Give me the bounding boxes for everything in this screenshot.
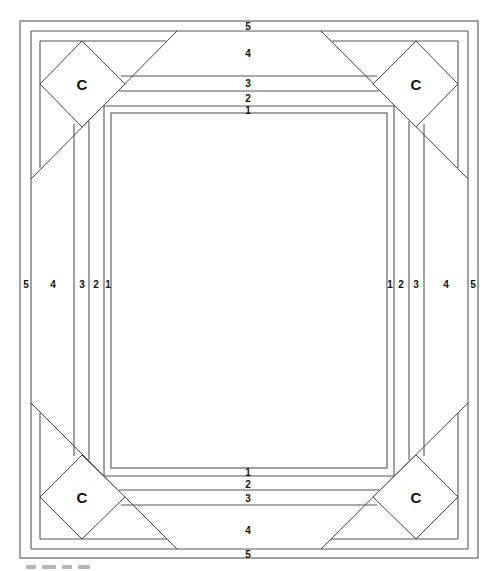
bottom-label-3: 3 — [245, 493, 251, 504]
right-label-2: 2 — [398, 279, 404, 290]
caption-fragment — [62, 565, 72, 569]
top-label-3: 3 — [245, 78, 251, 89]
top-label-4: 4 — [245, 48, 251, 59]
corner-label-bottom-right: C — [411, 489, 422, 506]
top-label-1: 1 — [245, 105, 251, 116]
cut-off-caption — [26, 565, 96, 571]
right-label-3: 3 — [413, 279, 419, 290]
right-label-4: 4 — [443, 279, 449, 290]
corner-label-top-left: C — [77, 76, 88, 93]
bottom-label-5: 5 — [245, 549, 251, 560]
bottom-label-2: 2 — [245, 479, 251, 490]
left-label-2: 2 — [93, 279, 99, 290]
right-label-5: 5 — [470, 279, 476, 290]
top-label-5: 5 — [245, 21, 251, 32]
top-label-2: 2 — [245, 93, 251, 104]
quilt-border-diagram: C C C C 5 4 3 2 1 1 2 3 4 5 5 4 3 2 1 1 … — [0, 0, 498, 571]
right-label-1: 1 — [387, 279, 393, 290]
corner-label-top-right: C — [411, 76, 422, 93]
caption-fragment — [42, 565, 56, 569]
left-label-5: 5 — [23, 279, 29, 290]
bottom-label-4: 4 — [245, 525, 251, 536]
corner-label-bottom-left: C — [77, 489, 88, 506]
left-label-3: 3 — [79, 279, 85, 290]
left-label-1: 1 — [105, 279, 111, 290]
center-panel — [111, 113, 387, 468]
bottom-label-1: 1 — [245, 467, 251, 478]
caption-fragment — [26, 565, 36, 569]
left-label-4: 4 — [50, 279, 56, 290]
caption-fragment — [78, 565, 90, 569]
